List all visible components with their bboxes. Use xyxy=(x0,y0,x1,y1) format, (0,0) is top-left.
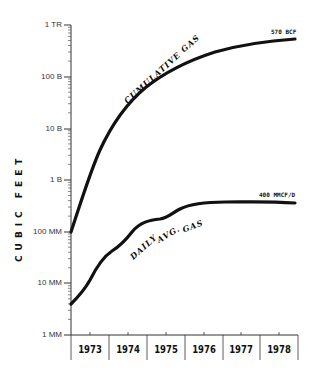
year-1976: 1976 xyxy=(188,344,220,355)
y-tick-1mm: 1 MM xyxy=(12,330,62,339)
y-tick-10mm: 10 MM xyxy=(12,278,62,287)
year-1975: 1975 xyxy=(150,344,182,355)
year-1977: 1977 xyxy=(225,344,257,355)
y-tick-100b: 100 B xyxy=(12,72,62,81)
daily-avg-gas-curve xyxy=(71,202,295,304)
y-tick-1tr: 1 TR xyxy=(12,20,62,29)
cumulative-end-label: 570 BCF xyxy=(271,28,296,35)
year-1978: 1978 xyxy=(263,344,295,355)
daily-end-label: 400 MMCF/D xyxy=(259,191,295,198)
y-tick-10b: 10 B xyxy=(12,124,62,133)
year-1974: 1974 xyxy=(112,344,144,355)
gas-production-chart xyxy=(0,0,315,378)
y-axis-title: CUBIC FEET xyxy=(14,154,24,262)
year-1973: 1973 xyxy=(74,344,106,355)
